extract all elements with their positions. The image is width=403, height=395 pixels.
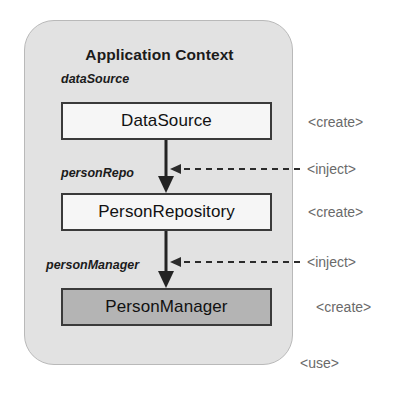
component-box-personmanager: PersonManager — [61, 288, 272, 326]
bean-label-datasource: dataSource — [61, 72, 129, 86]
component-box-personrepository: PersonRepository — [61, 193, 272, 231]
component-box-datasource: DataSource — [61, 102, 272, 140]
stereotype-inject-personrepo: <inject> — [307, 161, 356, 177]
dependency-injection-diagram: Application Context dataSource personRep… — [0, 0, 403, 395]
stereotype-create-datasource: <create> — [308, 114, 363, 130]
bean-label-personrepo: personRepo — [61, 166, 134, 180]
bean-label-personmanager: personManager — [46, 258, 139, 272]
stereotype-inject-personmanager: <inject> — [307, 254, 356, 270]
stereotype-create-personmanager: <create> — [316, 299, 371, 315]
stereotype-use: <use> — [300, 355, 339, 371]
stereotype-create-personrepository: <create> — [308, 204, 363, 220]
application-context-title: Application Context — [25, 46, 294, 64]
